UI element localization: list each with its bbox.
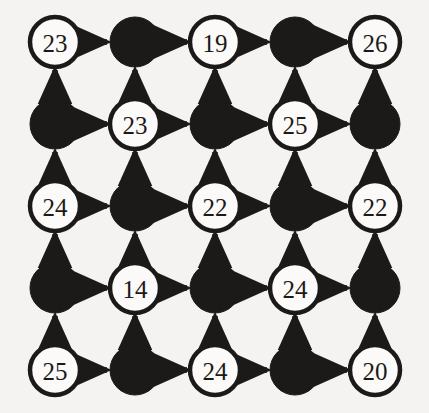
node-open: 20 [350, 345, 400, 395]
node-open: 14 [110, 263, 160, 313]
node-filled [270, 181, 320, 231]
node-value-label: 23 [43, 30, 68, 57]
node-open: 23 [110, 99, 160, 149]
node-open: 22 [350, 181, 400, 231]
node-circle [110, 17, 160, 67]
node-circle [190, 263, 240, 313]
node-open: 19 [190, 17, 240, 67]
node-filled [270, 345, 320, 395]
grid-graph-figure: 23192623252422221424252420 [0, 0, 429, 413]
node-open: 22 [190, 181, 240, 231]
node-value-label: 24 [203, 358, 229, 385]
node-open: 24 [270, 263, 320, 313]
node-circle [30, 99, 80, 149]
node-filled [350, 99, 400, 149]
node-filled [190, 263, 240, 313]
node-value-label: 20 [363, 358, 388, 385]
node-value-label: 26 [363, 30, 388, 57]
node-circle [350, 263, 400, 313]
node-open: 24 [190, 345, 240, 395]
node-filled [110, 17, 160, 67]
node-value-label: 25 [283, 112, 308, 139]
node-value-label: 19 [203, 30, 228, 57]
node-value-label: 22 [363, 194, 388, 221]
node-circle [350, 99, 400, 149]
node-circle [110, 181, 160, 231]
node-value-label: 23 [123, 112, 148, 139]
node-value-label: 22 [203, 194, 228, 221]
node-value-label: 24 [283, 276, 309, 303]
node-value-label: 25 [43, 358, 68, 385]
node-open: 25 [30, 345, 80, 395]
node-filled [110, 345, 160, 395]
node-circle [270, 345, 320, 395]
node-circle [110, 345, 160, 395]
grid-graph-canvas: 23192623252422221424252420 [0, 0, 429, 413]
node-filled [30, 99, 80, 149]
node-filled [270, 17, 320, 67]
node-filled [190, 99, 240, 149]
node-value-label: 24 [43, 194, 69, 221]
node-filled [30, 263, 80, 313]
node-circle [270, 181, 320, 231]
node-open: 26 [350, 17, 400, 67]
node-open: 23 [30, 17, 80, 67]
node-value-label: 14 [123, 276, 149, 303]
node-filled [350, 263, 400, 313]
node-circle [190, 99, 240, 149]
node-open: 24 [30, 181, 80, 231]
node-open: 25 [270, 99, 320, 149]
node-circle [270, 17, 320, 67]
node-filled [110, 181, 160, 231]
node-circle [30, 263, 80, 313]
